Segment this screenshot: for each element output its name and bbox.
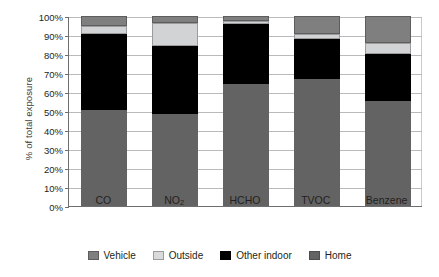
y-tick-mark <box>65 93 69 94</box>
bar-segment-home[interactable] <box>223 84 269 206</box>
y-tick-mark <box>65 17 69 18</box>
y-tick-label: 70% <box>17 69 63 80</box>
y-tick-mark <box>65 112 69 113</box>
bar-segment-other-indoor[interactable] <box>81 34 127 110</box>
plot-area: 0%10%20%30%40%50%60%70%80%90%100% <box>68 17 422 207</box>
bar-segment-outside[interactable] <box>365 43 411 54</box>
bar-segment-home[interactable] <box>81 110 127 206</box>
y-tick-label: 90% <box>17 31 63 42</box>
legend-label: Home <box>325 250 352 261</box>
legend-swatch-icon <box>153 251 164 260</box>
chart-legend: VehicleOutsideOther indoorHome <box>0 250 439 261</box>
legend-swatch-icon <box>309 251 320 260</box>
stacked-bar-no2[interactable] <box>152 16 198 206</box>
bar-segment-home[interactable] <box>152 114 198 206</box>
y-tick-label: 100% <box>17 12 63 23</box>
bar-segment-outside[interactable] <box>81 26 127 35</box>
y-tick-label: 10% <box>17 183 63 194</box>
y-tick-mark <box>65 188 69 189</box>
y-tick-label: 40% <box>17 126 63 137</box>
bar-segment-other-indoor[interactable] <box>152 46 198 113</box>
y-tick-label: 80% <box>17 50 63 61</box>
y-tick-label: 20% <box>17 164 63 175</box>
y-tick-mark <box>65 207 69 208</box>
y-tick-label: 50% <box>17 107 63 118</box>
bar-segment-vehicle[interactable] <box>365 16 411 43</box>
y-tick-mark <box>65 36 69 37</box>
legend-item-vehicle[interactable]: Vehicle <box>88 250 136 261</box>
bar-segment-home[interactable] <box>365 101 411 206</box>
stacked-bar-benzene[interactable] <box>365 16 411 206</box>
chart-figure: % of total exposure 0%10%20%30%40%50%60%… <box>0 0 439 277</box>
y-axis-title: % of total exposure <box>23 39 34 199</box>
bar-segment-outside[interactable] <box>152 23 198 47</box>
legend-label: Vehicle <box>104 250 136 261</box>
stacked-bar-tvoc[interactable] <box>294 16 340 206</box>
stacked-bar-co[interactable] <box>81 16 127 206</box>
y-tick-mark <box>65 169 69 170</box>
y-tick-label: 60% <box>17 88 63 99</box>
legend-label: Outside <box>169 250 203 261</box>
bar-segment-vehicle[interactable] <box>152 16 198 23</box>
legend-item-other-indoor[interactable]: Other indoor <box>220 250 292 261</box>
bar-segment-vehicle[interactable] <box>81 16 127 26</box>
legend-label: Other indoor <box>236 250 292 261</box>
legend-swatch-icon <box>220 251 231 260</box>
bar-segment-other-indoor[interactable] <box>365 54 411 101</box>
bar-segment-vehicle[interactable] <box>294 16 340 34</box>
y-tick-mark <box>65 150 69 151</box>
y-tick-mark <box>65 131 69 132</box>
bar-segment-home[interactable] <box>294 79 340 206</box>
legend-item-outside[interactable]: Outside <box>153 250 203 261</box>
y-tick-label: 0% <box>17 202 63 213</box>
bar-segment-other-indoor[interactable] <box>223 24 269 85</box>
y-tick-label: 30% <box>17 145 63 156</box>
x-tick-label-benzene: Benzene <box>342 194 432 206</box>
legend-swatch-icon <box>88 251 99 260</box>
legend-item-home[interactable]: Home <box>309 250 352 261</box>
stacked-bar-hcho[interactable] <box>223 16 269 206</box>
y-tick-mark <box>65 55 69 56</box>
y-tick-mark <box>65 74 69 75</box>
bar-segment-other-indoor[interactable] <box>294 39 340 79</box>
